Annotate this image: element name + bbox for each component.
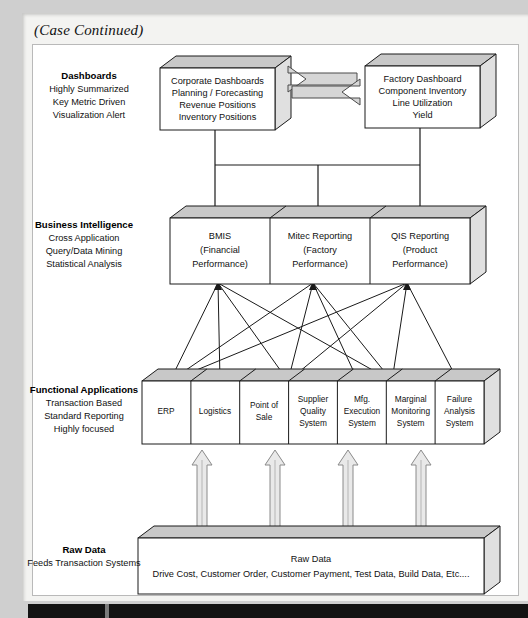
layer-label-raw-data: Raw Data Feeds Transaction Systems — [27, 544, 141, 568]
layer-attribute: Statistical Analysis — [46, 259, 122, 269]
box-corporate-dashboards[interactable]: Corporate Dashboards Planning / Forecast… — [160, 56, 291, 130]
box-line: Monitoring — [391, 406, 430, 416]
layer-attribute: Key Metric Driven — [53, 97, 126, 107]
box-line: Performance) — [192, 259, 248, 269]
box-line: System — [348, 418, 376, 428]
box-raw-data-store[interactable]: Raw Data Drive Cost, Customer Order, Cus… — [138, 526, 500, 594]
bi-to-apps-connectors — [170, 281, 458, 381]
box-line: Quality — [300, 406, 327, 416]
layer-attribute: Query/Data Mining — [46, 246, 123, 256]
layer-title: Functional Applications — [30, 384, 138, 395]
box-line: Analysis — [444, 406, 475, 416]
layer-attribute: Transaction Based — [46, 398, 122, 408]
layer-label-functional-applications: Functional Applications Transaction Base… — [30, 384, 138, 434]
raw-data-feed-arrows — [192, 450, 431, 538]
layer-label-dashboards: Dashboards Highly Summarized Key Metric … — [49, 70, 129, 120]
box-line: Execution — [344, 406, 381, 416]
box-erp[interactable]: ERP — [157, 406, 175, 416]
box-line: BMIS — [209, 231, 231, 241]
layer-attribute: Standard Reporting — [44, 411, 124, 421]
layer-title: Business Intelligence — [35, 219, 133, 230]
box-line: QIS Reporting — [391, 231, 449, 241]
box-line: Revenue Positions — [179, 100, 256, 110]
box-line: Performance) — [392, 259, 448, 269]
box-supplier-quality-system[interactable]: Supplier Quality System — [298, 394, 329, 428]
layer-title: Raw Data — [62, 544, 106, 555]
layer-attribute: Cross Application — [49, 233, 120, 243]
box-line: (Factory — [303, 245, 337, 255]
layer-attribute: Highly focused — [54, 424, 114, 434]
box-line: Planning / Forecasting — [172, 88, 263, 98]
box-line: Component Inventory — [379, 86, 467, 96]
box-line: System — [299, 418, 327, 428]
box-line: (Financial — [200, 245, 240, 255]
box-line: Mitec Reporting — [288, 231, 352, 241]
box-line: System — [397, 418, 425, 428]
box-functional-applications-slab[interactable]: ERP Logistics Point of Sale Supplier Qua… — [142, 369, 500, 444]
box-line: Logistics — [199, 406, 231, 416]
box-line: Supplier — [298, 394, 329, 404]
layer-attribute: Visualization Alert — [53, 110, 126, 120]
diagram-canvas: Corporate Dashboards Planning / Forecast… — [0, 0, 528, 618]
diagram-page: (Case Continued) Corporate Dashboards Pl… — [0, 0, 528, 618]
box-line: Line Utilization — [393, 98, 453, 108]
box-line: Drive Cost, Customer Order, Customer Pay… — [153, 569, 470, 579]
box-line: Point of — [250, 400, 279, 410]
box-line: Yield — [412, 110, 432, 120]
box-line: Factory Dashboard — [383, 74, 461, 84]
box-line: Raw Data — [291, 554, 332, 564]
box-line: Mfg. — [354, 394, 370, 404]
layer-label-business-intelligence: Business Intelligence Cross Application … — [35, 219, 133, 269]
box-line: (Product — [403, 245, 438, 255]
box-line: Corporate Dashboards — [171, 76, 264, 86]
box-logistics[interactable]: Logistics — [199, 406, 231, 416]
box-line: System — [446, 418, 474, 428]
dashboard-to-bi-connectors — [215, 128, 420, 218]
box-business-intelligence-slab[interactable]: BMIS (Financial Performance) Mitec Repor… — [170, 206, 486, 284]
layer-attribute: Feeds Transaction Systems — [27, 558, 141, 568]
box-line: Performance) — [292, 259, 348, 269]
layer-title: Dashboards — [61, 70, 116, 81]
layer-attribute: Highly Summarized — [49, 84, 129, 94]
box-line: Failure — [447, 394, 473, 404]
box-line: Marginal — [395, 394, 427, 404]
box-line: Inventory Positions — [179, 112, 257, 122]
box-line: Sale — [256, 412, 273, 422]
box-factory-dashboard[interactable]: Factory Dashboard Component Inventory Li… — [365, 54, 496, 128]
box-failure-analysis-system[interactable]: Failure Analysis System — [444, 394, 475, 428]
box-line: ERP — [157, 406, 175, 416]
